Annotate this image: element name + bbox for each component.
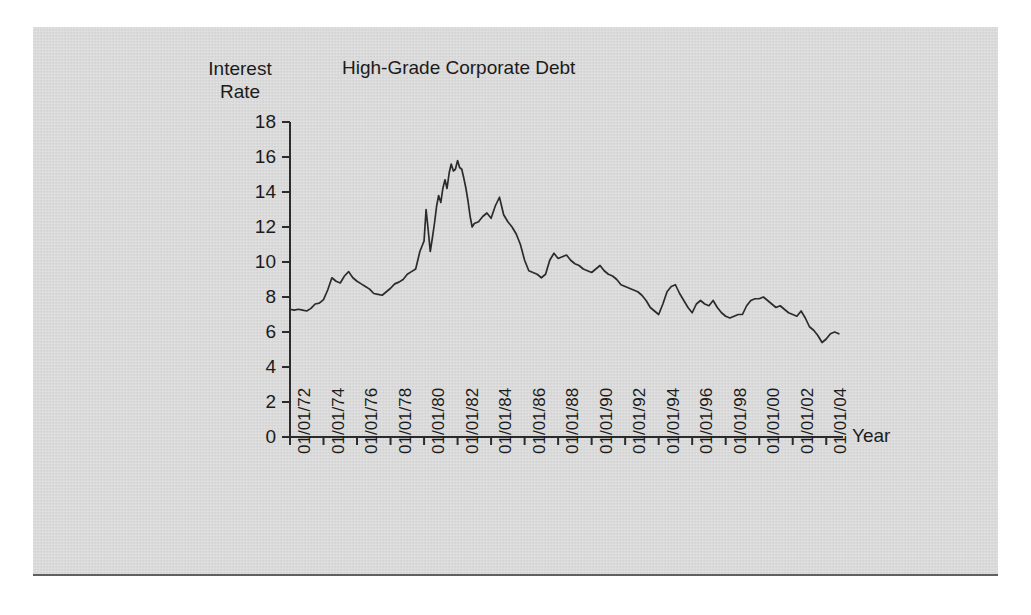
x-tick-label: 01/01/00 (765, 388, 782, 454)
y-tick-label: 2 (228, 392, 276, 411)
y-axis-ticks (282, 122, 290, 437)
y-tick-label: 6 (228, 322, 276, 341)
y-tick-label: 16 (228, 147, 276, 166)
y-tick-label: 0 (228, 427, 276, 446)
x-tick-label: 01/01/02 (799, 388, 816, 454)
plot-area (0, 0, 1031, 615)
x-tick-label: 01/01/86 (531, 388, 548, 454)
x-tick-label: 01/01/82 (464, 388, 481, 454)
x-tick-label: 01/01/92 (631, 388, 648, 454)
x-tick-label: 01/01/84 (497, 388, 514, 454)
x-tick-label: 01/01/76 (363, 388, 380, 454)
x-tick-label: 01/01/80 (430, 388, 447, 454)
y-tick-label: 14 (228, 182, 276, 201)
y-tick-label: 12 (228, 217, 276, 236)
x-tick-label: 01/01/98 (732, 388, 749, 454)
x-tick-label: 01/01/72 (296, 388, 313, 454)
y-tick-label: 4 (228, 357, 276, 376)
x-tick-label: 01/01/78 (397, 388, 414, 454)
data-line-high-grade-corporate-debt (290, 161, 839, 343)
chart-svg (0, 0, 1031, 615)
x-tick-label: 01/01/90 (598, 388, 615, 454)
x-tick-label: 01/01/94 (665, 388, 682, 454)
x-tick-label: 01/01/96 (698, 388, 715, 454)
x-tick-label: 01/01/04 (832, 388, 849, 454)
figure-root: Interest Rate High-Grade Corporate Debt … (0, 0, 1031, 615)
y-tick-label: 8 (228, 287, 276, 306)
x-tick-label: 01/01/74 (330, 388, 347, 454)
y-tick-label: 10 (228, 252, 276, 271)
y-tick-label: 18 (228, 112, 276, 131)
x-tick-label: 01/01/88 (564, 388, 581, 454)
data-series-group (290, 161, 839, 343)
